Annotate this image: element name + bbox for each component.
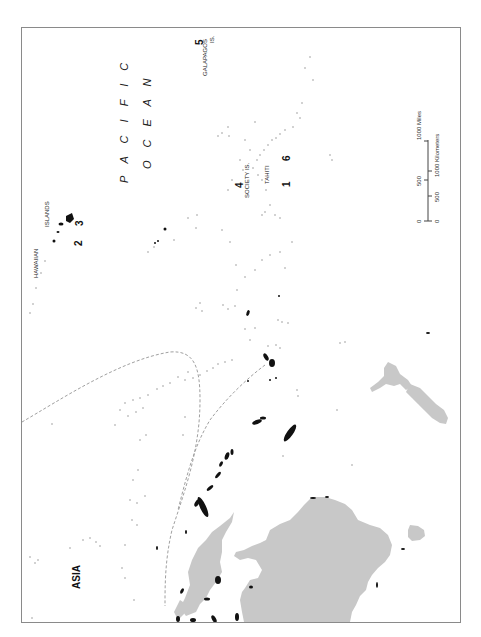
- scale-miles-0: 0: [416, 220, 422, 223]
- scale-miles-500: 500: [416, 176, 422, 186]
- label-islands: ISLANDS: [44, 201, 50, 227]
- new-guinea-west: [174, 600, 186, 620]
- tasmania-landmass: [408, 525, 425, 541]
- ocean-label-ocean: O C E A N: [141, 73, 153, 169]
- label-galapagos-is: IS.: [209, 36, 215, 43]
- scale-miles-label: 1000 Miles: [416, 111, 422, 140]
- label-tahiti: TAHITI: [264, 165, 270, 184]
- new-zealand-south-island: [406, 384, 448, 424]
- marker-3: 3: [74, 220, 85, 226]
- marker-4: 4: [234, 182, 245, 188]
- ocean-label-pacific: P A C I F I C: [118, 58, 130, 183]
- label-asia: ASIA: [71, 565, 82, 589]
- label-galapagos: GALAPAGOS: [202, 39, 208, 76]
- marker-1: 1: [281, 181, 292, 187]
- scale-km-500: 500: [434, 192, 440, 202]
- australia-landmass: [234, 497, 392, 622]
- marker-2: 2: [73, 240, 84, 246]
- dashed-boundaries: [22, 352, 265, 606]
- marker-6: 6: [281, 155, 292, 161]
- map-canvas: [0, 0, 481, 637]
- label-society-is: SOCIETY IS.: [244, 163, 250, 198]
- new-zealand-north-island: [370, 362, 412, 392]
- scale-km-label: 1000 Kilometers: [434, 134, 440, 177]
- label-hawaiian: HAWAIIAN: [33, 249, 39, 278]
- hawaiian-islands: [53, 213, 75, 243]
- scale-bar: [424, 140, 432, 221]
- scale-km-0: 0: [434, 220, 440, 223]
